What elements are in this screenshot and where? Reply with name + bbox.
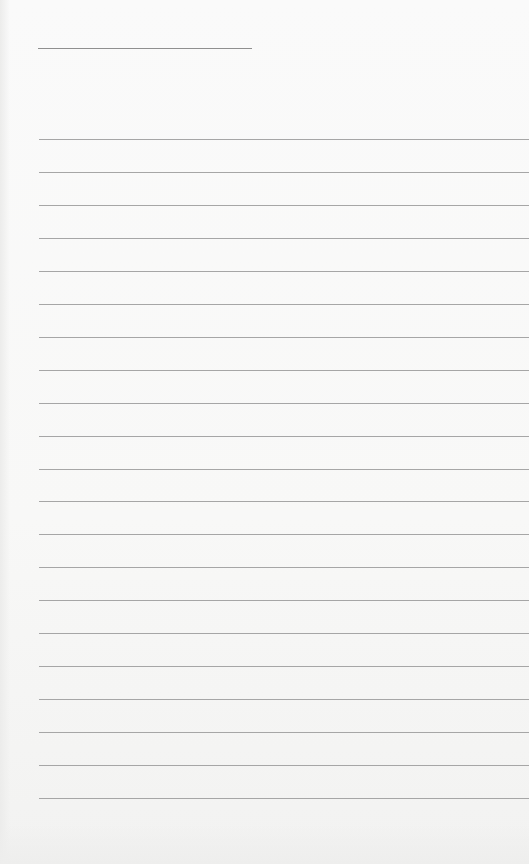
ruled-line — [39, 501, 529, 502]
ruled-line — [39, 238, 529, 239]
ruled-line — [39, 271, 529, 272]
paper-left-shadow — [0, 0, 10, 864]
ruled-line — [39, 469, 529, 470]
lined-paper-page — [0, 0, 529, 864]
ruled-line — [39, 534, 529, 535]
ruled-line — [39, 732, 529, 733]
ruled-line — [39, 337, 529, 338]
ruled-line — [39, 436, 529, 437]
ruled-line — [39, 765, 529, 766]
ruled-line — [39, 205, 529, 206]
ruled-line — [39, 567, 529, 568]
ruled-line — [39, 139, 529, 140]
ruled-line — [39, 370, 529, 371]
ruled-line — [39, 600, 529, 601]
ruled-line — [39, 666, 529, 667]
paper-bottom-shadow — [0, 824, 529, 864]
ruled-line — [39, 699, 529, 700]
ruled-line — [39, 172, 529, 173]
ruled-line — [39, 403, 529, 404]
ruled-line — [39, 304, 529, 305]
ruled-line — [39, 633, 529, 634]
ruled-line — [39, 798, 529, 799]
title-line — [38, 48, 252, 49]
